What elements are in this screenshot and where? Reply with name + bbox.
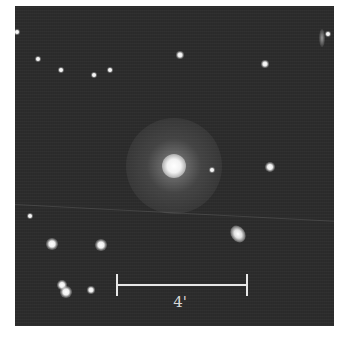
- star: [265, 162, 275, 172]
- star: [95, 239, 107, 251]
- star: [46, 238, 58, 250]
- edge-on-galaxy: [319, 29, 325, 47]
- star: [261, 60, 269, 68]
- star: [58, 67, 64, 73]
- star: [176, 51, 184, 59]
- scale-bar-line: [117, 284, 247, 286]
- star: [91, 72, 97, 78]
- scale-bar-left-tick: [116, 274, 118, 296]
- star: [87, 286, 95, 294]
- star: [60, 286, 72, 298]
- star: [209, 167, 215, 173]
- star: [27, 213, 33, 219]
- star: [107, 67, 113, 73]
- scale-bar-label: 4': [173, 293, 187, 311]
- astronomical-image: 4': [15, 6, 334, 326]
- star: [35, 56, 41, 62]
- star: [325, 31, 331, 37]
- scale-bar-right-tick: [246, 274, 248, 296]
- main-galaxy-core: [162, 154, 186, 178]
